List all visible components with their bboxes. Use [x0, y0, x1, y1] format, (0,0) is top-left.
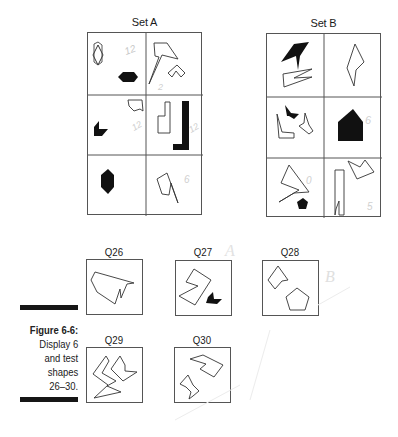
q29-shape — [87, 348, 144, 404]
q28-shape — [263, 261, 320, 317]
q29-label: Q29 — [88, 334, 139, 346]
q26-label: Q26 — [88, 246, 139, 258]
handwritten-b: B — [325, 268, 335, 285]
figure-caption-line-3: shapes — [30, 365, 78, 379]
q30-label: Q30 — [176, 334, 227, 346]
set-a-shapes: 12 2 12 12 6 — [88, 33, 203, 216]
q30-box — [174, 347, 231, 403]
svg-text:12: 12 — [187, 121, 201, 135]
svg-text:6: 6 — [184, 174, 190, 185]
set-b-grid: 6 0 5 — [266, 33, 381, 217]
caption-top-bar — [20, 305, 78, 310]
figure-caption-line-2: and test — [30, 351, 78, 365]
set-b-title: Set B — [266, 17, 381, 29]
caption-bottom-bar — [20, 397, 78, 402]
figure-caption-line-4: 26–30. — [30, 379, 78, 393]
q27-shape — [176, 261, 233, 317]
filled-hexagon-icon — [118, 72, 138, 82]
q26-shape — [87, 260, 144, 316]
set-a-grid: 12 2 12 12 6 — [87, 32, 202, 215]
q27-box — [175, 260, 232, 316]
q28-box — [262, 260, 319, 316]
q30-shape — [175, 348, 232, 404]
q26-box — [86, 259, 143, 315]
set-a-title: Set A — [87, 16, 202, 28]
q28-label: Q28 — [264, 246, 315, 258]
svg-text:12: 12 — [123, 43, 138, 57]
set-b-shapes: 6 0 5 — [267, 34, 382, 218]
svg-text:12: 12 — [130, 119, 144, 133]
svg-text:5: 5 — [367, 201, 373, 212]
q29-box — [86, 347, 143, 403]
svg-text:6: 6 — [365, 114, 372, 126]
q27-label: Q27 — [177, 246, 228, 258]
svg-text:2: 2 — [157, 82, 163, 92]
figure-caption: Figure 6-6: Display 6 and test shapes 26… — [30, 323, 78, 393]
figure-caption-line-1: Display 6 — [30, 337, 78, 351]
svg-text:0: 0 — [306, 175, 312, 186]
figure-caption-title: Figure 6-6: — [30, 323, 78, 337]
